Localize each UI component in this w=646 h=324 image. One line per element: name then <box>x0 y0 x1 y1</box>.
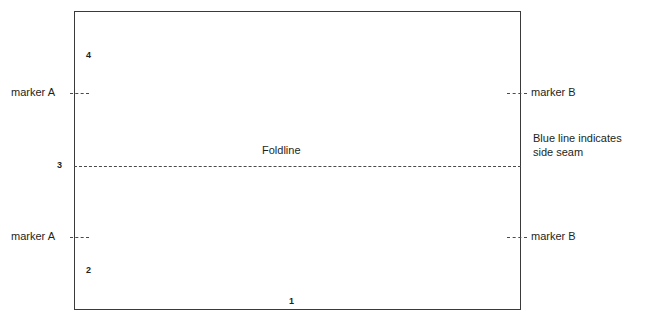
side-seam-annotation: Blue line indicates side seam <box>533 131 641 159</box>
marker-b-bottom-label: marker B <box>531 230 576 243</box>
side-seam-annotation-line2: side seam <box>533 145 641 159</box>
edge-number-2: 2 <box>86 265 91 276</box>
edge-number-4: 4 <box>86 50 91 61</box>
marker-b-top-label: marker B <box>531 86 576 99</box>
marker-a-bottom-tick <box>70 237 89 238</box>
marker-a-top-tick <box>70 93 89 94</box>
pattern-piece-outline <box>74 11 521 310</box>
marker-a-top-label: marker A <box>11 86 55 99</box>
diagram-canvas: Foldline marker A marker B marker A mark… <box>0 0 646 324</box>
marker-a-bottom-label: marker A <box>11 230 55 243</box>
side-seam-annotation-line1: Blue line indicates <box>533 131 641 145</box>
edge-number-1: 1 <box>289 296 294 307</box>
foldline-label: Foldline <box>262 144 301 157</box>
marker-b-top-tick <box>507 93 527 94</box>
foldline-dashed-line <box>74 166 521 167</box>
edge-number-3: 3 <box>57 160 62 171</box>
marker-b-bottom-tick <box>507 237 527 238</box>
